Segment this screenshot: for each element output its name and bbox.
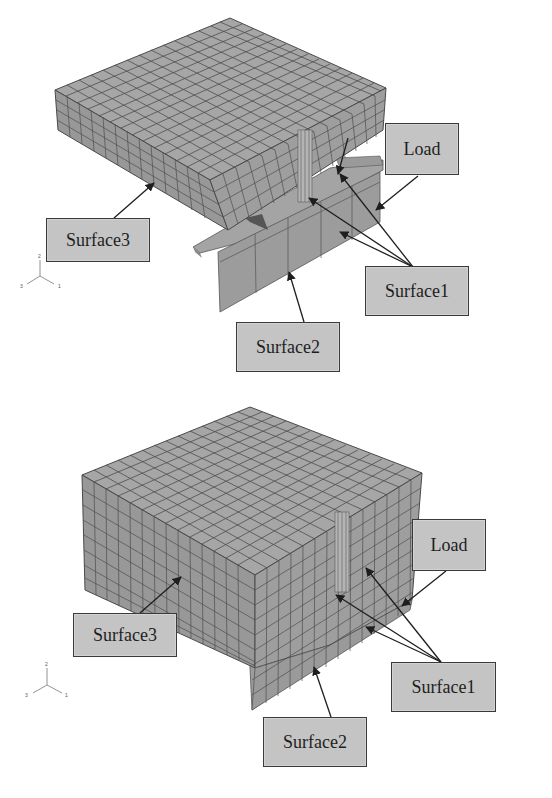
bottom-axis-label-3: 3 xyxy=(25,692,28,698)
bottom-weld-zone xyxy=(335,512,349,592)
bottom-arrow-surface2 xyxy=(314,667,331,717)
bottom-label-surface2: Surface2 xyxy=(263,717,367,767)
top-arrow-surface1-c xyxy=(340,232,413,267)
bottom-axis-triad xyxy=(33,668,62,693)
top-axis-triad xyxy=(27,260,54,284)
top-axis-label-2: 2 xyxy=(38,253,41,259)
top-label-surface2: Surface2 xyxy=(236,322,340,372)
bottom-label-surface3: Surface3 xyxy=(73,613,177,657)
top-axis-label-1: 1 xyxy=(58,283,61,289)
top-label-surface1: Surface1 xyxy=(365,266,469,316)
bottom-arrow-surface1-c xyxy=(366,627,441,662)
top-panel-model: 2 3 1 xyxy=(20,18,418,322)
top-arrow-surface3 xyxy=(114,183,154,218)
bottom-axis-label-2: 2 xyxy=(45,661,48,667)
bottom-axis-label-1: 1 xyxy=(65,692,68,698)
top-arrow-load-1 xyxy=(376,176,418,210)
top-label-surface3: Surface3 xyxy=(46,218,150,262)
bottom-panel-model: 2 3 1 xyxy=(25,407,446,717)
top-label-load: Load xyxy=(385,123,459,175)
top-weld-zone xyxy=(298,130,312,202)
top-arrow-surface2 xyxy=(289,272,304,322)
bottom-label-surface1: Surface1 xyxy=(391,662,496,712)
bottom-label-load: Load xyxy=(412,519,486,571)
top-axis-label-3: 3 xyxy=(20,283,23,289)
